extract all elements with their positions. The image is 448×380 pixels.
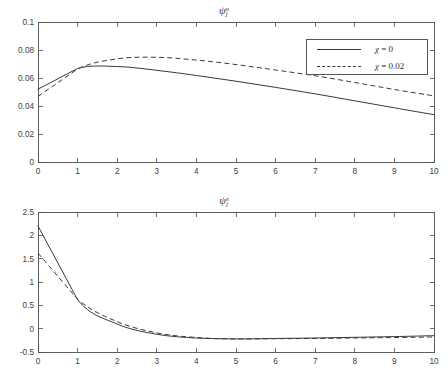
chart-svg-top: 0 0.02 0.04 0.06 0.08 0.1 0 1 2 3 4 5 6 … [0, 0, 448, 190]
y-tick-label: 0 [29, 158, 34, 167]
legend-entry-chi-0-top: χ = 0 [307, 41, 427, 59]
x-tick-label: 9 [392, 357, 397, 366]
x-tick-label: 0 [36, 357, 41, 366]
y-tick-label: 0.5 [23, 301, 35, 310]
y-tick-label: 1.5 [23, 255, 35, 264]
y-tick-label: 0.02 [18, 130, 34, 139]
figure-container: ψjn [0, 0, 448, 380]
y-tick-label: 0.06 [18, 74, 34, 83]
chart-svg-bottom: -0.5 0 0.5 1 1.5 2 2.5 0 1 2 3 4 5 6 7 8… [0, 190, 448, 380]
chart-panel-top: ψjn [0, 0, 448, 190]
x-tick-label: 2 [115, 357, 120, 366]
x-tick-label: 0 [36, 167, 41, 176]
y-axis-labels-top: 0 0.02 0.04 0.06 0.08 0.1 [18, 18, 34, 167]
x-tick-label: 4 [194, 357, 199, 366]
x-axis-labels-bottom: 0 1 2 3 4 5 6 7 8 9 10 [36, 357, 439, 366]
x-tick-label: 5 [234, 167, 239, 176]
y-tick-label: -0.5 [20, 348, 35, 357]
x-tick-label: 8 [353, 357, 358, 366]
x-tick-label: 7 [313, 167, 318, 176]
x-tick-label: 1 [75, 167, 80, 176]
y-tick-label: 2 [29, 231, 34, 240]
legend-line-solid-icon [317, 49, 361, 50]
chi-value: = 0.02 [379, 61, 404, 71]
legend-label-chi-002: χ = 0.02 [375, 61, 404, 71]
plot-frame-bottom [38, 212, 434, 352]
y-tick-label: 2.5 [23, 208, 35, 217]
legend-line-dashed-icon [317, 66, 361, 67]
x-axis-ticks-bottom [38, 212, 434, 352]
x-tick-label: 2 [115, 167, 120, 176]
x-tick-label: 5 [234, 357, 239, 366]
x-tick-label: 10 [429, 167, 439, 176]
x-tick-label: 7 [313, 357, 318, 366]
x-tick-label: 9 [392, 167, 397, 176]
chi-value: = 0 [379, 44, 393, 54]
x-tick-label: 3 [155, 357, 160, 366]
x-tick-label: 4 [194, 167, 199, 176]
data-curve-chi-002-bottom [38, 253, 434, 339]
chart-panel-bottom: ψjx [0, 190, 448, 380]
x-tick-label: 10 [429, 357, 439, 366]
x-tick-label: 3 [155, 167, 160, 176]
data-curve-chi-0-bottom [38, 226, 434, 339]
legend-top: χ = 0 χ = 0.02 [306, 39, 428, 75]
x-tick-label: 6 [273, 357, 278, 366]
y-tick-label: 0.1 [23, 18, 35, 27]
y-axis-ticks-bottom [38, 212, 434, 352]
y-tick-label: 0.08 [18, 46, 34, 55]
legend-label-chi-0: χ = 0 [375, 44, 393, 54]
x-tick-label: 8 [353, 167, 358, 176]
x-tick-label: 6 [273, 167, 278, 176]
y-tick-label: 0.04 [18, 102, 34, 111]
legend-entry-chi-002-top: χ = 0.02 [307, 58, 427, 76]
y-tick-label: 0 [29, 325, 34, 334]
y-tick-label: 1 [29, 278, 34, 287]
x-axis-labels-top: 0 1 2 3 4 5 6 7 8 9 10 [36, 167, 439, 176]
y-axis-labels-bottom: -0.5 0 0.5 1 1.5 2 2.5 [20, 208, 35, 357]
x-tick-label: 1 [75, 357, 80, 366]
